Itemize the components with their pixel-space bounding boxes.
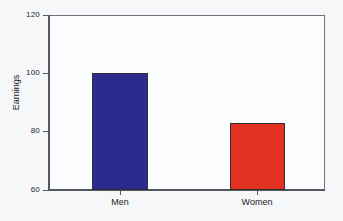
y-tick-label-60: 60: [31, 186, 40, 194]
y-tick-mark-120: [43, 15, 48, 16]
y-tick-label-120: 120: [26, 11, 40, 19]
x-tick-mark-men: [120, 191, 121, 195]
x-tick-label-men: Men: [75, 198, 165, 207]
bar-women: [230, 123, 285, 190]
y-tick-mark-80: [43, 131, 48, 132]
y-tick-label-80: 80: [31, 127, 40, 135]
y-axis-title: Earnings: [12, 63, 21, 123]
bar-chart: 120 100 80 60 Earnings Men Women: [0, 0, 343, 221]
y-tick-mark-60: [43, 190, 48, 191]
y-axis-line: [48, 15, 50, 191]
y-tick-mark-100: [43, 73, 48, 74]
x-tick-mark-women: [257, 191, 258, 195]
bar-men: [92, 73, 148, 190]
x-tick-label-women: Women: [212, 198, 302, 207]
y-tick-label-100: 100: [26, 69, 40, 77]
